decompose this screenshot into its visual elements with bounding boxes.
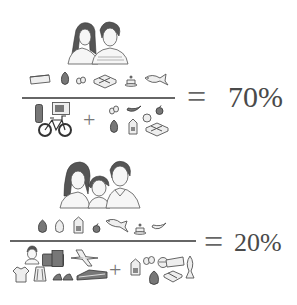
banana-icon: [126, 104, 142, 114]
suitcase-icon: [42, 250, 64, 267]
plus-sign: +: [83, 109, 95, 131]
tofu-blocks-icon: [93, 74, 117, 88]
bread-loaf-icon: [165, 256, 185, 268]
bicycle-icon: [38, 114, 72, 138]
chicken-icon: [54, 219, 65, 234]
couple-illustration: [62, 20, 134, 64]
milk-carton-icon: [128, 118, 138, 135]
cabbage-icon: [148, 270, 160, 286]
fish-icon: [184, 255, 196, 279]
result-70-percent: 70%: [228, 80, 283, 114]
eggs-icon: [143, 255, 155, 266]
milk-carton-icon: [130, 258, 141, 276]
apple-icon: [155, 105, 164, 115]
eggs-icon: [109, 105, 119, 115]
tofu-blocks-icon: [145, 122, 169, 136]
airplane-icon: [70, 249, 100, 267]
fish-icon: [105, 217, 129, 233]
cake-icon: [134, 222, 146, 234]
boy-icon: [25, 246, 39, 264]
cabbage-icon: [37, 219, 48, 234]
family-illustration: [58, 160, 142, 208]
banana-icon: [151, 221, 167, 231]
cabbage-icon: [60, 71, 70, 86]
equals-sign: =: [204, 225, 223, 259]
fish-icon: [144, 73, 168, 87]
apple-icon: [92, 223, 101, 233]
tofu-blocks-icon: [163, 270, 183, 282]
bread-loaf-icon: [29, 73, 51, 85]
milk-carton-icon: [73, 216, 84, 234]
shoe-box-icon: [75, 268, 109, 282]
fraction-line: [22, 97, 175, 99]
eggs-icon: [76, 76, 86, 85]
fraction-line: [10, 240, 196, 242]
plus-sign: +: [109, 259, 121, 281]
cabbage-icon: [109, 119, 119, 134]
cake-icon: [125, 74, 137, 86]
shoes-icon: [52, 272, 74, 282]
equals-sign: =: [187, 80, 206, 114]
t-shirt-icon: [12, 266, 30, 283]
skirt-icon: [33, 266, 47, 282]
result-20-percent: 20%: [234, 228, 282, 258]
